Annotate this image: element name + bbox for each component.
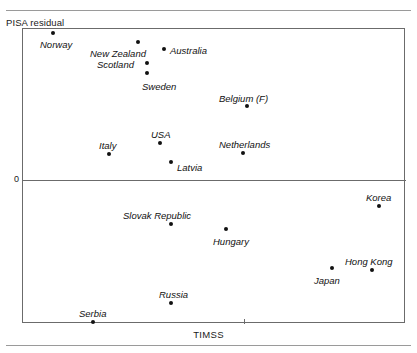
data-point — [224, 227, 228, 231]
data-point — [169, 160, 173, 164]
data-point-label: Sweden — [142, 82, 176, 92]
data-point — [51, 31, 55, 35]
x-axis-title: TIMSS — [0, 329, 417, 340]
zero-reference-line — [23, 180, 406, 181]
data-point — [370, 268, 374, 272]
data-point-label: Serbia — [79, 309, 106, 319]
y-axis-title: PISA residual — [6, 17, 64, 28]
data-point-label: Russia — [159, 290, 188, 300]
data-point — [241, 151, 245, 155]
data-point-label: Latvia — [177, 163, 202, 173]
data-point-label: Japan — [314, 276, 340, 286]
data-point-label: Slovak Republic — [123, 211, 191, 221]
figure-top-rule — [6, 10, 411, 11]
data-point — [162, 47, 166, 51]
data-point-label: Norway — [40, 40, 72, 50]
data-point-label: Netherlands — [219, 140, 270, 150]
data-point-label: Hong Kong — [345, 257, 393, 267]
data-point — [330, 266, 334, 270]
data-point — [91, 320, 95, 324]
data-point-label: New Zealand — [90, 49, 146, 59]
data-point — [169, 222, 173, 226]
data-point-label: Italy — [99, 141, 116, 151]
figure-bottom-rule — [6, 345, 411, 346]
data-point — [158, 141, 162, 145]
data-point-label: Hungary — [213, 237, 249, 247]
data-point — [169, 301, 173, 305]
data-point-label: Korea — [366, 193, 391, 203]
data-point-label: Australia — [170, 46, 207, 56]
data-point-label: USA — [151, 130, 171, 140]
data-point — [145, 61, 149, 65]
data-point — [245, 104, 249, 108]
data-point-label: Scotland — [97, 60, 134, 70]
figure-container: PISA residual NorwayNew ZealandAustralia… — [0, 0, 417, 353]
plot-area: NorwayNew ZealandAustraliaScotlandSweden… — [22, 28, 405, 323]
zero-axis-label: 0 — [3, 174, 19, 184]
data-point — [136, 40, 140, 44]
data-point-label: Belgium (F) — [219, 94, 268, 104]
x-axis-tick — [244, 319, 245, 324]
data-point — [145, 71, 149, 75]
data-point — [377, 204, 381, 208]
data-point — [107, 152, 111, 156]
